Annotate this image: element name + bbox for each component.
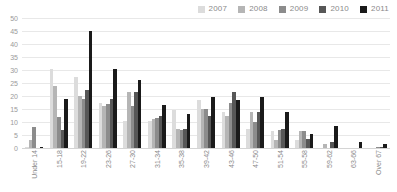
y-tick-label: 10: [10, 119, 18, 126]
legend-label: 2010: [330, 5, 349, 13]
legend-swatch-icon: [238, 6, 245, 13]
legend-item-2011[interactable]: 2011: [360, 5, 389, 13]
x-tick-cell: 63-66: [341, 150, 366, 192]
y-tick-label: 35: [10, 54, 18, 61]
bar-2011-Under 14[interactable]: [40, 147, 44, 148]
x-tick-cell: 43-46: [218, 150, 243, 192]
bar-group: [145, 18, 170, 148]
x-tick-label: 55-58: [301, 150, 308, 168]
x-tick-label: 43-46: [227, 150, 234, 168]
x-tick-cell: 59-62: [316, 150, 341, 192]
bar-2011-55-58[interactable]: [310, 134, 314, 148]
bar-2011-Over 67[interactable]: [383, 144, 387, 148]
x-tick-cell: 35-38: [169, 150, 194, 192]
legend-item-2007[interactable]: 2007: [198, 5, 228, 13]
bar-group: [47, 18, 72, 148]
legend-item-2010[interactable]: 2010: [319, 5, 349, 13]
x-tick-label: Under 14: [31, 150, 38, 179]
y-tick-label: 25: [10, 80, 18, 87]
x-tick-label: 15-18: [55, 150, 62, 168]
bar-group: [218, 18, 243, 148]
x-tick-label: 35-38: [178, 150, 185, 168]
x-tick-cell: 55-58: [292, 150, 317, 192]
x-tick-label: 27-30: [129, 150, 136, 168]
bar-group: [243, 18, 268, 148]
bar-2011-19-22[interactable]: [89, 31, 93, 148]
legend-swatch-icon: [360, 6, 367, 13]
x-tick-label: 19-22: [80, 150, 87, 168]
bar-group: [169, 18, 194, 148]
bar-chart: 20072008200920102011 5045403530252015105…: [0, 0, 397, 192]
bar-group: [194, 18, 219, 148]
x-tick-cell: Under 14: [22, 150, 47, 192]
bar-2011-47-50[interactable]: [260, 97, 264, 148]
x-tick-cell: 51-54: [267, 150, 292, 192]
bar-group: [120, 18, 145, 148]
legend-label: 2011: [371, 5, 389, 13]
legend-label: 2008: [249, 5, 268, 13]
x-axis-labels: Under 1415-1819-2223-2627-3031-3435-3839…: [22, 150, 390, 192]
bar-2011-27-30[interactable]: [138, 80, 142, 148]
bar-group: [267, 18, 292, 148]
legend-swatch-icon: [319, 6, 326, 13]
bar-2011-15-18[interactable]: [64, 99, 68, 148]
y-tick-label: 30: [10, 67, 18, 74]
legend-swatch-icon: [279, 6, 286, 13]
bar-2011-39-42[interactable]: [211, 97, 215, 148]
plot-area: [22, 18, 390, 148]
x-tick-label: 63-66: [350, 150, 357, 168]
bar-2008-59-62[interactable]: [323, 144, 327, 148]
x-tick-label: 47-50: [252, 150, 259, 168]
x-tick-cell: 15-18: [47, 150, 72, 192]
y-axis-labels: 50454035302520151050: [0, 18, 20, 148]
bar-2011-59-62[interactable]: [334, 126, 338, 148]
legend-swatch-icon: [198, 6, 205, 13]
y-tick-label: 5: [14, 132, 18, 139]
bar-2011-51-54[interactable]: [285, 112, 289, 148]
bar-group: [22, 18, 47, 148]
y-tick-label: 40: [10, 41, 18, 48]
y-tick-label: 20: [10, 93, 18, 100]
bar-2009-Under 14[interactable]: [32, 127, 36, 148]
legend-label: 2007: [209, 5, 228, 13]
x-tick-cell: 47-50: [243, 150, 268, 192]
gridline: [22, 148, 390, 149]
bar-group: [341, 18, 366, 148]
bar-group: [292, 18, 317, 148]
bar-group: [96, 18, 121, 148]
bar-group: [71, 18, 96, 148]
y-tick-label: 15: [10, 106, 18, 113]
legend-label: 2009: [290, 5, 309, 13]
x-tick-cell: 39-42: [194, 150, 219, 192]
x-tick-label: 31-34: [153, 150, 160, 168]
x-tick-cell: Over 67: [365, 150, 390, 192]
legend-item-2009[interactable]: 2009: [279, 5, 309, 13]
bar-2011-63-66[interactable]: [359, 142, 363, 149]
bar-2011-43-46[interactable]: [236, 100, 240, 148]
x-tick-cell: 27-30: [120, 150, 145, 192]
x-tick-label: 51-54: [276, 150, 283, 168]
y-tick-label: 50: [10, 15, 18, 22]
x-tick-label: 23-26: [104, 150, 111, 168]
bar-2011-31-34[interactable]: [162, 105, 166, 148]
bar-2011-23-26[interactable]: [113, 69, 117, 148]
bar-2011-35-38[interactable]: [187, 114, 191, 148]
bar-group: [316, 18, 341, 148]
y-tick-label: 0: [14, 145, 18, 152]
x-tick-cell: 23-26: [96, 150, 121, 192]
y-tick-label: 45: [10, 28, 18, 35]
legend-item-2008[interactable]: 2008: [238, 5, 268, 13]
x-tick-cell: 19-22: [71, 150, 96, 192]
bar-group: [365, 18, 390, 148]
x-tick-label: 39-42: [202, 150, 209, 168]
x-tick-cell: 31-34: [145, 150, 170, 192]
chart-legend: 20072008200920102011: [0, 2, 397, 16]
x-tick-label: 59-62: [325, 150, 332, 168]
bar-groups: [22, 18, 390, 148]
x-tick-label: Over 67: [374, 150, 381, 175]
